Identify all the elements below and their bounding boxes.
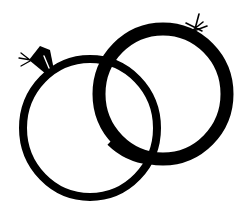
diamond-gem-icon xyxy=(19,46,54,74)
diamond-ring xyxy=(23,59,157,197)
rings-graphic xyxy=(0,0,251,213)
wedding-rings-illustration: Interlocking wedding rings xyxy=(0,0,251,213)
ring-overlap xyxy=(112,140,150,158)
